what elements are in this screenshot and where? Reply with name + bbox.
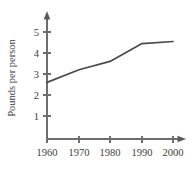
x-tick-label-2000: 2000: [163, 147, 184, 158]
x-tick-label-1960: 1960: [37, 147, 58, 158]
data-series-line: [47, 42, 173, 83]
y-tick-label-3: 3: [34, 69, 39, 80]
y-tick-label-5: 5: [34, 27, 39, 38]
line-chart-figure: 5 4 3 2 1 1960 1970 1980 1990 2000 Pound…: [0, 0, 191, 169]
y-tick-label-1: 1: [34, 111, 39, 122]
x-tick-label-1980: 1980: [100, 147, 121, 158]
x-tick-label-1970: 1970: [69, 147, 90, 158]
y-axis-arrow-icon: [44, 11, 51, 20]
x-axis-arrow-icon: [178, 136, 187, 143]
y-tick-label-2: 2: [34, 90, 39, 101]
chart-canvas: 5 4 3 2 1 1960 1970 1980 1990 2000 Pound…: [0, 0, 191, 169]
x-tick-label-1990: 1990: [132, 147, 153, 158]
y-axis-title: Pounds per person: [6, 38, 17, 116]
y-tick-label-4: 4: [34, 48, 40, 59]
